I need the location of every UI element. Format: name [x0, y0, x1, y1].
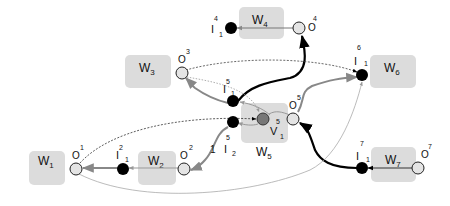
svg-text:1: 1 [125, 156, 129, 163]
worker-w7: W7 [371, 147, 416, 182]
node-i4-1[interactable]: I 4 1 [211, 15, 237, 38]
edge-o3-i6 [186, 60, 357, 72]
svg-text:1: 1 [364, 60, 368, 67]
svg-text:5: 5 [276, 118, 280, 125]
svg-text:4: 4 [313, 15, 317, 22]
node-o4[interactable]: O 4 [293, 15, 317, 34]
edge-o1-i6 [79, 82, 362, 193]
svg-text:O: O [180, 150, 188, 161]
svg-text:I: I [354, 55, 357, 67]
edge-i5-o4 [238, 36, 305, 101]
svg-text:5: 5 [226, 134, 230, 141]
svg-text:1: 1 [280, 133, 284, 140]
svg-text:I: I [356, 150, 359, 162]
edge-i7-o5 [300, 123, 357, 168]
svg-text:O: O [308, 22, 316, 33]
worker-w6: W6 [370, 55, 416, 88]
node-i5-2[interactable]: 5 I 2 [224, 116, 239, 157]
svg-text:3: 3 [186, 48, 190, 55]
svg-text:7: 7 [428, 143, 432, 150]
node-o1[interactable]: O 1 [70, 144, 84, 175]
svg-text:1: 1 [219, 31, 223, 38]
svg-text:1: 1 [231, 90, 235, 97]
worker-w3: W3 [125, 55, 171, 88]
svg-text:O: O [289, 100, 297, 111]
svg-text:O: O [72, 150, 80, 161]
node-o2[interactable]: O 2 [178, 144, 193, 175]
svg-text:2: 2 [119, 144, 123, 151]
svg-text:7: 7 [360, 140, 364, 147]
node-i7-1[interactable]: I 7 1 [356, 140, 370, 174]
svg-text:1: 1 [80, 144, 84, 151]
edge-o5-i6 [298, 77, 357, 112]
svg-text:I: I [211, 23, 214, 35]
node-i6-1[interactable]: I 6 1 [354, 44, 368, 81]
worker-w1: W1 [29, 151, 65, 185]
svg-text:1: 1 [366, 156, 370, 163]
workflow-diagram: W4 W3 W6 W5 W1 W2 W7 [0, 0, 450, 206]
svg-text:I: I [224, 143, 227, 155]
svg-text:W5: W5 [256, 145, 272, 161]
edge-label-1: 1 [210, 144, 216, 155]
svg-text:6: 6 [357, 44, 361, 51]
svg-text:2: 2 [189, 144, 193, 151]
svg-text:5: 5 [297, 94, 301, 101]
svg-text:4: 4 [214, 15, 218, 22]
svg-text:5: 5 [226, 78, 230, 85]
node-i2-1[interactable]: I 2 1 [116, 144, 129, 175]
svg-text:O: O [421, 149, 429, 160]
worker-w4: W4 [239, 7, 284, 39]
svg-text:O: O [178, 54, 186, 65]
edge-i5-o3 [186, 78, 228, 103]
svg-text:V: V [270, 125, 278, 137]
node-o3[interactable]: O 3 [176, 48, 190, 79]
svg-text:2: 2 [232, 150, 236, 157]
